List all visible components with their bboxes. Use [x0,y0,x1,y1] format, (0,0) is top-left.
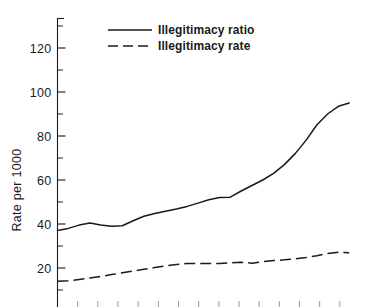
legend-label-illegitimacy-ratio: Illegitimacy ratio [158,23,255,37]
x-axis-ticks [78,301,340,307]
chart-container: 20406080100120 Rate per 1000 Illegitimac… [0,0,367,307]
series-line-illegitimacy-ratio [58,103,350,231]
y-axis-tick-labels: 20406080100120 [30,42,52,276]
y-axis-title: Rate per 1000 [10,148,24,231]
legend: Illegitimacy ratio Illegitimacy rate [108,23,255,53]
y-tick-label: 60 [37,174,52,188]
y-tick-label: 100 [30,86,52,100]
line-chart: 20406080100120 Rate per 1000 Illegitimac… [0,0,367,307]
series-line-illegitimacy-rate [58,252,350,281]
legend-label-illegitimacy-rate: Illegitimacy rate [158,39,251,53]
series-group [58,103,350,281]
y-tick-label: 20 [37,262,52,276]
x-axis [78,301,340,307]
y-tick-label: 80 [37,130,52,144]
y-tick-label: 120 [30,42,52,56]
y-axis: 20406080100120 [30,18,66,307]
y-tick-label: 40 [37,218,52,232]
y-axis-minor-ticks [58,26,64,290]
